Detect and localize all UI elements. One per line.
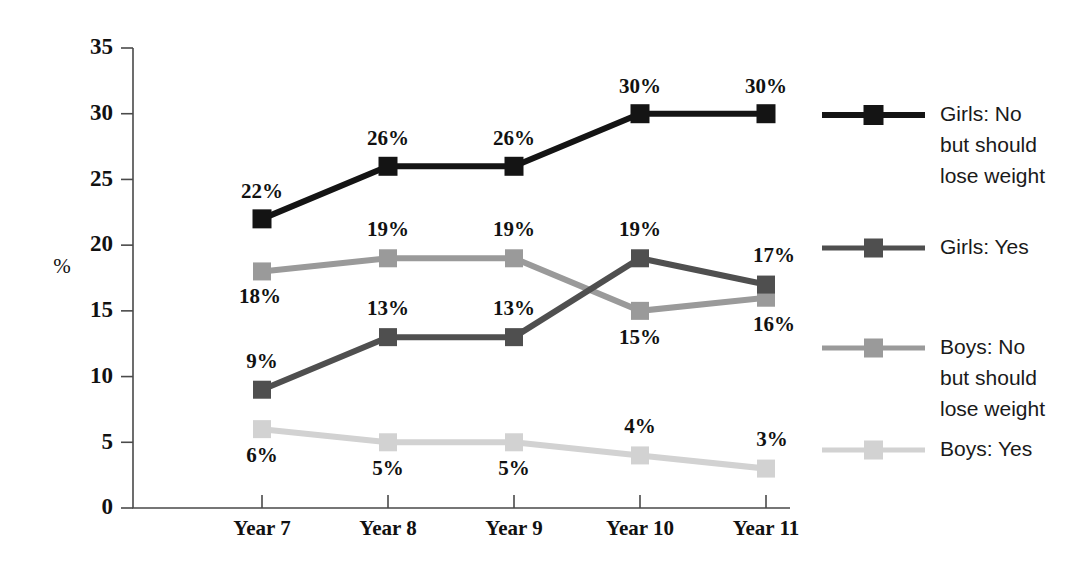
- data-point-marker: [253, 420, 271, 438]
- y-tick-label: 15: [90, 297, 113, 322]
- data-point-marker: [631, 249, 649, 267]
- data-point-marker: [379, 433, 397, 451]
- chart-legend: Girls: Nobut shouldlose weightGirls: Yes…: [822, 102, 1045, 460]
- legend-label-line: Girls: No: [940, 102, 1022, 125]
- y-axis-title: %: [53, 254, 71, 278]
- y-tick-label: 0: [102, 494, 114, 519]
- data-point-marker: [757, 276, 775, 294]
- y-tick-label: 30: [90, 100, 113, 125]
- data-point-marker: [631, 446, 649, 464]
- data-point-marker: [253, 209, 272, 228]
- y-axis-ticks: 05101520253035: [90, 34, 133, 519]
- y-tick-label: 5: [102, 429, 114, 454]
- data-value-label: 19%: [367, 217, 409, 241]
- series-0: [253, 104, 776, 228]
- data-point-marker: [631, 302, 649, 320]
- data-value-label: 22%: [241, 179, 283, 203]
- data-point-marker: [505, 328, 523, 346]
- chart-axes: %: [53, 48, 790, 508]
- legend-marker-sample: [864, 441, 883, 460]
- legend-label-line: Boys: Yes: [940, 437, 1032, 460]
- data-value-label: 6%: [246, 443, 278, 467]
- data-value-label: 19%: [493, 217, 535, 241]
- data-point-marker: [379, 157, 398, 176]
- y-tick-label: 20: [90, 231, 113, 256]
- series-line: [262, 258, 766, 389]
- data-value-label: 3%: [756, 427, 788, 451]
- data-point-marker: [253, 262, 271, 280]
- legend-marker-sample: [864, 105, 884, 125]
- data-value-label: 16%: [753, 312, 795, 336]
- data-value-label: 9%: [246, 349, 278, 373]
- y-tick-label: 35: [90, 34, 113, 59]
- data-value-label: 30%: [745, 74, 787, 98]
- legend-entry-3[interactable]: Boys: Yes: [822, 437, 1032, 460]
- y-tick-label: 25: [90, 166, 113, 191]
- axis-lines: [133, 48, 790, 508]
- data-point-marker: [379, 249, 397, 267]
- series-1: [253, 249, 775, 398]
- legend-label-line: but should: [940, 133, 1037, 156]
- data-point-marker: [631, 104, 650, 123]
- data-point-marker: [505, 249, 523, 267]
- data-point-marker: [757, 104, 776, 123]
- legend-label-line: Boys: No: [940, 335, 1025, 358]
- data-value-label: 18%: [239, 284, 281, 308]
- data-value-label: 13%: [367, 296, 409, 320]
- x-tick-label: Year 9: [485, 516, 542, 540]
- legend-label-line: lose weight: [940, 397, 1045, 420]
- data-value-label: 5%: [372, 456, 404, 480]
- chart-container: % 05101520253035 Year 7Year 8Year 9Year …: [0, 0, 1075, 563]
- x-tick-label: Year 11: [733, 516, 800, 540]
- x-tick-label: Year 10: [606, 516, 674, 540]
- y-tick-label: 10: [90, 363, 113, 388]
- data-value-label: 30%: [619, 74, 661, 98]
- legend-marker-sample: [864, 339, 883, 358]
- legend-label-line: but should: [940, 366, 1037, 389]
- legend-marker-sample: [864, 239, 883, 258]
- data-point-marker: [757, 460, 775, 478]
- legend-entry-2[interactable]: Boys: Nobut shouldlose weight: [822, 335, 1045, 420]
- x-tick-label: Year 8: [359, 516, 416, 540]
- chart-series: [253, 104, 776, 477]
- data-value-label: 26%: [493, 126, 535, 150]
- data-value-label: 4%: [624, 414, 656, 438]
- legend-label-line: Girls: Yes: [940, 235, 1029, 258]
- data-value-label: 13%: [493, 296, 535, 320]
- data-value-labels: 22%26%26%30%30%9%13%13%19%17%18%19%19%15…: [239, 74, 795, 481]
- legend-label-line: lose weight: [940, 164, 1045, 187]
- data-point-marker: [379, 328, 397, 346]
- data-value-label: 26%: [367, 126, 409, 150]
- data-value-label: 17%: [753, 243, 795, 267]
- data-point-marker: [505, 157, 524, 176]
- x-tick-label: Year 7: [233, 516, 290, 540]
- data-value-label: 19%: [619, 217, 661, 241]
- x-axis-ticks: Year 7Year 8Year 9Year 10Year 11: [233, 495, 799, 540]
- data-point-marker: [505, 433, 523, 451]
- legend-entry-1[interactable]: Girls: Yes: [822, 235, 1029, 258]
- line-chart: % 05101520253035 Year 7Year 8Year 9Year …: [0, 0, 1075, 563]
- data-value-label: 15%: [619, 325, 661, 349]
- data-value-label: 5%: [498, 456, 530, 480]
- legend-entry-0[interactable]: Girls: Nobut shouldlose weight: [822, 102, 1045, 187]
- data-point-marker: [253, 381, 271, 399]
